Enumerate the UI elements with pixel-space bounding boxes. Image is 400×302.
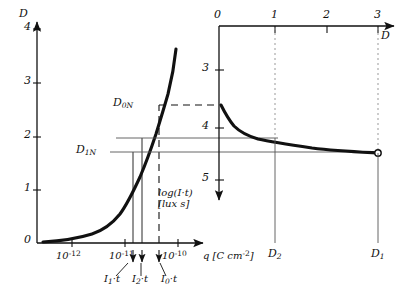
left-x-tick-1em12: 10-12 — [56, 250, 81, 262]
dose-label-d1: D1 — [371, 248, 385, 261]
marker-d1n: D1N — [76, 144, 96, 157]
left-x-tick-1em11: 10-11 — [109, 250, 134, 262]
left-x-tick-1em10: 10-10 — [162, 250, 187, 262]
left-x-tick-1em11-mantissa: 10 — [109, 250, 122, 261]
marker-d0n: D0N — [113, 97, 133, 110]
left-y-tick-0: 0 — [24, 234, 31, 246]
left-y-axis-name: D — [19, 8, 28, 20]
left-y-tick-1: 1 — [24, 182, 31, 194]
exposure-label-i1t-rest: ·t — [113, 273, 120, 284]
right-y-tick-5: 5 — [202, 172, 209, 184]
dose-label-d1-subscript: 1 — [380, 252, 385, 261]
left-x-tick-1em10-mantissa: 10 — [162, 250, 175, 261]
exposure-label-i0t-rest: ·t — [170, 273, 177, 284]
right-y-tick-4: 4 — [202, 120, 209, 132]
marker-d1n-subscript: 1N — [85, 148, 96, 157]
left-x-tick-1em12-mantissa: 10 — [56, 250, 69, 261]
right-top-axis-name: D — [381, 30, 390, 42]
right-top-ticks — [275, 26, 378, 33]
right-log-exposure-curve — [221, 105, 379, 153]
exposure-label-i0t: I0·t — [161, 274, 177, 286]
left-characteristic-curve — [43, 49, 176, 242]
dose-label-d2-subscript: 2 — [277, 252, 282, 261]
right-top-tick-3: 3 — [374, 9, 381, 21]
exposure-arrow-group — [133, 250, 159, 262]
marker-d1n-symbol: D — [76, 143, 85, 156]
right-y-axis-name-line2: [lux s] — [158, 199, 189, 210]
figure-canvas: D 4 3 2 1 0 10-12 10-11 10-10 q [C cm-2]… — [0, 0, 400, 302]
left-x-axis-unit: [C cm — [213, 250, 243, 261]
exposure-label-i1t: I1·t — [104, 274, 120, 286]
left-x-tick-1em10-exp: -10 — [175, 249, 187, 258]
left-x-axis-name: q [C cm-2] — [203, 250, 254, 262]
dose-label-d2: D2 — [268, 248, 282, 261]
left-y-tick-3: 3 — [24, 75, 31, 87]
left-y-tick-4: 4 — [24, 21, 31, 33]
right-top-tick-0: 0 — [214, 9, 221, 21]
exposure-label-i2t: I2·t — [132, 274, 148, 286]
dose-label-d2-symbol: D — [268, 247, 277, 260]
marker-d0n-symbol: D — [113, 96, 122, 109]
left-x-tick-1em12-exp: -12 — [69, 249, 81, 258]
left-y-tick-2: 2 — [24, 129, 31, 141]
marker-d0n-subscript: 0N — [122, 101, 133, 110]
right-y-axis-name-line1: log(I·t) — [158, 188, 193, 199]
right-y-tick-3: 3 — [202, 62, 209, 74]
left-x-axis-unit-close: ] — [250, 250, 254, 261]
right-top-tick-1: 1 — [271, 9, 278, 21]
exposure-label-i2t-rest: ·t — [141, 273, 148, 284]
left-x-tick-1em11-exp: -11 — [122, 249, 134, 258]
left-x-axis-unit-exp: -2 — [242, 249, 249, 258]
right-top-tick-2: 2 — [323, 9, 330, 21]
dose-label-d1-symbol: D — [371, 247, 380, 260]
